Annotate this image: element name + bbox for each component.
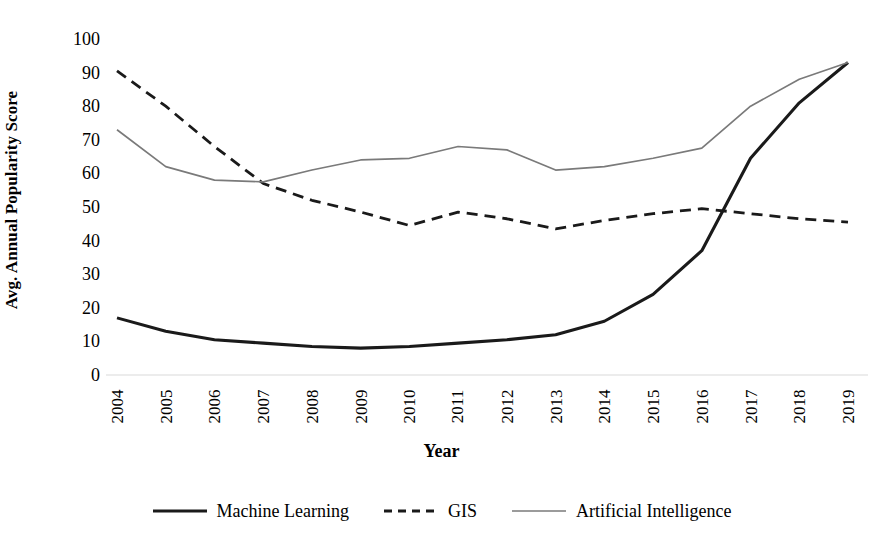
- y-tick-label: 50: [34, 198, 100, 216]
- x-tick-label-text: 2014: [596, 390, 613, 424]
- x-tick-label-text: 2016: [693, 390, 710, 424]
- x-tick-label-text: 2004: [109, 390, 126, 424]
- x-tick-label-text: 2006: [206, 390, 223, 424]
- x-tick-label-text: 2019: [840, 390, 857, 424]
- x-tick-label-text: 2010: [401, 390, 418, 424]
- x-tick-label-text: 2012: [498, 390, 515, 424]
- x-tick-label-text: 2018: [791, 390, 808, 424]
- y-tick-label: 60: [34, 164, 100, 182]
- y-tick-label: 90: [34, 64, 100, 82]
- x-tick-label-text: 2005: [157, 390, 174, 424]
- x-tick-label-text: 2007: [255, 390, 272, 424]
- y-axis-tick-labels: 0102030405060708090100: [34, 0, 106, 400]
- x-tick-label: 2019: [817, 378, 879, 436]
- series-line-gis: [117, 71, 848, 229]
- y-tick-label: 80: [34, 97, 100, 115]
- x-tick-label-text: 2013: [547, 390, 564, 424]
- x-tick-label-text: 2008: [303, 390, 320, 424]
- legend-swatch-machine-learning: [152, 504, 208, 518]
- y-tick-label: 10: [34, 332, 100, 350]
- legend-label-machine-learning: Machine Learning: [217, 502, 349, 520]
- x-axis-title: Year: [0, 441, 883, 462]
- legend-label-artificial-intelligence: Artificial Intelligence: [576, 502, 731, 520]
- chart-legend: Machine LearningGISArtificial Intelligen…: [0, 502, 883, 520]
- legend-item-gis[interactable]: GIS: [383, 502, 477, 520]
- line-chart: Avg. Annual Popularity Score 01020304050…: [0, 0, 883, 558]
- legend-label-gis: GIS: [448, 502, 477, 520]
- series-line-machine-learning: [117, 63, 848, 349]
- series-line-artificial-intelligence: [117, 63, 848, 182]
- x-tick-label-text: 2017: [742, 390, 759, 424]
- plot-svg: [106, 24, 868, 384]
- x-tick-label-text: 2015: [645, 390, 662, 424]
- y-tick-label: 30: [34, 265, 100, 283]
- legend-item-artificial-intelligence[interactable]: Artificial Intelligence: [511, 502, 731, 520]
- y-tick-label: 100: [34, 30, 100, 48]
- y-tick-label: 40: [34, 232, 100, 250]
- legend-swatch-gis: [383, 504, 439, 518]
- y-tick-label: 20: [34, 299, 100, 317]
- y-tick-label: 70: [34, 131, 100, 149]
- x-axis-tick-labels: 2004200520062007200820092010201120122013…: [0, 378, 883, 440]
- legend-swatch-artificial-intelligence: [511, 504, 567, 518]
- plot-area: [106, 24, 868, 384]
- y-axis-title: Avg. Annual Popularity Score: [0, 0, 24, 400]
- x-tick-label-text: 2009: [352, 390, 369, 424]
- x-tick-label-text: 2011: [450, 390, 467, 423]
- y-axis-title-text: Avg. Annual Popularity Score: [2, 91, 22, 309]
- legend-item-machine-learning[interactable]: Machine Learning: [152, 502, 349, 520]
